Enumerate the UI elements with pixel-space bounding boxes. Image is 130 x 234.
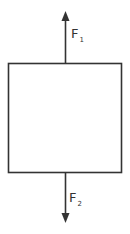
force-subscript: 2	[77, 200, 81, 208]
force-arrow-down-head	[62, 213, 70, 223]
force-label-f1: F1	[71, 26, 84, 41]
free-body-diagram	[0, 0, 130, 234]
force-subscript: 1	[79, 36, 83, 44]
force-label-f2: F2	[69, 190, 82, 205]
force-name: F	[71, 26, 78, 41]
force-name: F	[69, 190, 76, 205]
body-rectangle	[9, 64, 122, 173]
force-arrow-up-head	[62, 11, 70, 21]
